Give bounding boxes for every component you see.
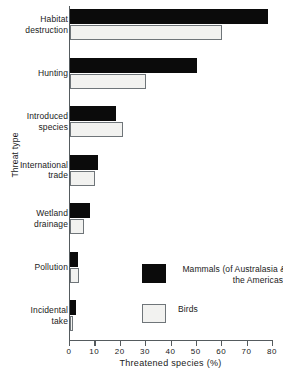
bar-mammals: [70, 252, 78, 267]
bar-birds: [70, 25, 222, 40]
category-label: Hunting: [0, 68, 68, 79]
x-axis-tick-label: 20: [108, 347, 132, 356]
category-label: Incidentaltake: [0, 305, 68, 326]
x-axis-tick: [69, 341, 70, 346]
bar-birds: [70, 171, 95, 186]
bar-mammals: [70, 203, 90, 218]
bar-birds: [70, 219, 84, 234]
bar-mammals: [70, 300, 76, 315]
category-label: Pollution: [0, 262, 68, 273]
legend-label-mammals: Mammals (of Australasia & the Americas): [178, 264, 283, 285]
chart-figure: Threat type 01020304050607080 Habitatdes…: [0, 0, 283, 376]
x-axis-tick-label: 10: [82, 347, 106, 356]
x-axis-tick: [120, 341, 121, 346]
x-axis-tick: [145, 341, 146, 346]
x-axis-tick: [272, 341, 273, 346]
x-axis-tick: [171, 341, 172, 346]
bar-birds: [70, 268, 79, 283]
category-label: Wetlanddrainage: [0, 208, 68, 229]
bar-birds: [70, 316, 73, 331]
legend-label-birds: Birds: [178, 304, 198, 315]
x-axis-tick-label: 30: [133, 347, 157, 356]
bar-mammals: [70, 106, 116, 121]
category-label: Internationaltrade: [0, 160, 68, 181]
bar-birds: [70, 74, 146, 89]
bar-mammals: [70, 155, 98, 170]
x-axis-tick-label: 60: [209, 347, 233, 356]
legend-swatch-birds-icon: [142, 304, 166, 323]
x-axis-tick-label: 40: [159, 347, 183, 356]
category-label: Habitatdestruction: [0, 14, 68, 35]
x-axis-tick-label: 0: [57, 347, 81, 356]
x-axis-tick-label: 80: [260, 347, 283, 356]
bar-mammals: [70, 9, 268, 24]
legend-item-birds: Birds: [142, 304, 198, 323]
category-label: Introducedspecies: [0, 111, 68, 132]
bar-mammals: [70, 58, 197, 73]
bar-birds: [70, 122, 123, 137]
x-axis-tick-label: 70: [235, 347, 259, 356]
legend-item-mammals: Mammals (of Australasia & the Americas): [142, 264, 283, 285]
x-axis-title: Threatened species (%): [69, 358, 272, 368]
x-axis-tick: [94, 341, 95, 346]
x-axis-tick: [196, 341, 197, 346]
x-axis-tick: [247, 341, 248, 346]
legend-swatch-mammals-icon: [142, 264, 166, 283]
x-axis-tick-label: 50: [184, 347, 208, 356]
x-axis-tick: [221, 341, 222, 346]
